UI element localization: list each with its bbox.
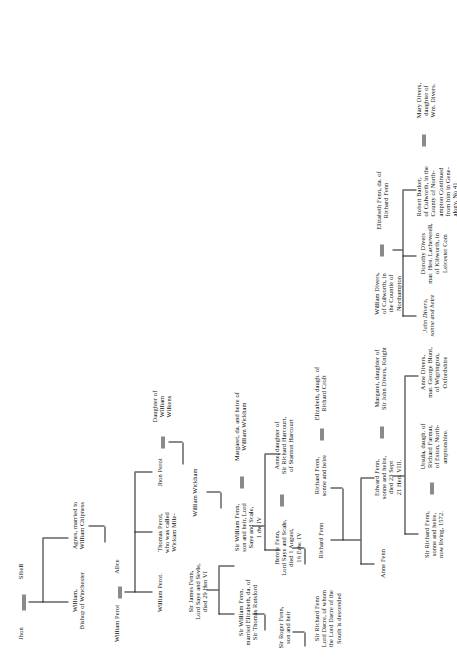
person-sir-william-fenn: Sir William Fenn,married Elizabeth, da. … <box>236 568 258 656</box>
connector-g3-c <box>134 471 152 472</box>
person-dorothy-divers: Dorothy Diversmar. Hen. Lacheverell,of K… <box>418 218 447 288</box>
marriage-link-barker <box>420 134 427 146</box>
person-thomas-perot: Thomas Perot,who was calledWickam Mile- <box>155 500 177 564</box>
connector-rf-bar <box>342 488 343 540</box>
marriage-link-g3 <box>116 586 123 598</box>
connector-james-bar <box>218 566 219 614</box>
person-richard-fenn-heire: Richard Fenn,sonne and heire <box>312 444 326 506</box>
connector-roger2-drop <box>292 631 304 632</box>
connector-rf-up <box>330 487 342 488</box>
person-william-divers: William Divers,of Culworth, inthe Counti… <box>372 258 401 328</box>
person-margaret-divers: Margaret, daughter ofSir John Divers, Kn… <box>372 332 386 424</box>
connector-g1-right <box>42 537 68 538</box>
person-william-bishop: William,Bishop of Winchester <box>70 558 84 642</box>
connector-divers-b <box>402 255 416 256</box>
connector-roger-bar <box>264 614 265 630</box>
marriage-link-g4 <box>159 436 166 448</box>
person-daughter-wilkins: Daughter ofWilliamWilkens <box>150 378 172 434</box>
connector-james-left <box>218 613 234 614</box>
person-sir-roger-fenn: Sir Roger Fenn,son and heir <box>276 598 290 656</box>
connector-roger2-bar <box>304 632 305 646</box>
marriage-link-g7 <box>278 494 285 506</box>
connector-g4-drop <box>168 441 182 442</box>
connector-roger-drop <box>252 613 264 614</box>
person-william-perot-1: William Perot <box>112 594 119 652</box>
connector-g10-drop <box>392 475 404 476</box>
person-sir-richard-fenn-living: Sir Richard Fenn,sonne and heire,now liv… <box>422 496 444 572</box>
person-jhon: Jhon <box>16 612 23 654</box>
connector-g1-bar <box>42 538 43 602</box>
connector-g10-bar <box>404 376 405 534</box>
connector-g10-b <box>404 375 418 376</box>
connector-g9-left <box>360 563 374 564</box>
person-sir-william-fenn-son: Sir William Fenn,son and heir, LordSaye … <box>232 490 261 564</box>
connector-g7-drop <box>292 547 304 548</box>
connector-divers-drop <box>392 249 402 250</box>
connector-g1-left <box>42 601 68 602</box>
person-margaret-wickham: Margaret, da. and heire ofWilliam Wickha… <box>232 378 246 474</box>
person-richard-fenn-1: Richard Fenn <box>316 512 323 568</box>
connector-g6-bar <box>264 454 265 550</box>
marriage-link-divers <box>378 244 385 256</box>
person-john-divers: John Divers,sonne and heire <box>420 284 434 346</box>
person-jhon-perot: Jhon Perot <box>155 448 162 496</box>
person-edward-fenn: Edward Fenn,sonne and heire,died 23 Sept… <box>372 442 401 512</box>
connector-g6-drop <box>252 525 264 526</box>
person-anne-divers: Anne Divers,mar. George Blunt,of Wigring… <box>418 336 447 408</box>
connector-g3-drop <box>124 591 134 592</box>
person-anne-harcourt: Anne, daughter ofSir Richard Harcourt,of… <box>272 398 294 492</box>
person-sibell: Sibell <box>16 550 23 592</box>
person-sir-james-fenn: Sir James Fenn,Lord Saye and Sevle,died … <box>186 552 208 630</box>
marriage-link-g10 <box>428 482 435 494</box>
person-alice: Alice <box>112 544 119 588</box>
connector-g9-bar <box>360 478 361 564</box>
person-william-wickham: William Wickham <box>190 460 197 524</box>
person-elizabeth-fenn: Elizabeth Fenn, da. ofRichard Fenn <box>374 158 388 242</box>
connector-wickham-drop <box>206 491 220 492</box>
person-agnes: Agnes, married toWilliam Chipness <box>70 482 84 568</box>
marriage-link-g9 <box>378 426 385 438</box>
connector-g9-drop <box>342 539 360 540</box>
connector-james-drop <box>206 589 218 590</box>
connector-g10-a <box>404 533 418 534</box>
connector-divers-bar <box>402 190 403 316</box>
connector-agnes-bar <box>104 526 105 542</box>
connector-agnes-drop <box>88 525 104 526</box>
connector-wickham-bar <box>220 492 221 508</box>
connector-g1-drop <box>28 601 42 602</box>
marriage-link-g6 <box>238 476 245 488</box>
connector-james-right <box>218 565 234 566</box>
connector-rf-drop <box>330 539 342 540</box>
person-anne-fenn: Anne Fenn <box>378 538 385 588</box>
person-sir-richard-fenn-dacre: Sir Richard FennLord Dacre, of whomthe L… <box>312 578 341 658</box>
person-ursula-farmar: Ursula, daugh. ofRichard Farmar,of Eston… <box>418 412 447 480</box>
connector-g4-bar <box>182 442 183 464</box>
person-robert-barker: Robert Barker,of Culworth, in theCounty … <box>414 150 457 216</box>
connector-g3-b <box>134 531 152 532</box>
person-william-perot-2: William Perot. <box>155 560 162 624</box>
person-elizabeth-croft: Elizabeth, daugh. ofRichard Croft <box>312 360 326 426</box>
marriage-link-g8 <box>318 428 325 440</box>
person-mary-divers: Mary Divers,daughter ofWm. Divers. <box>414 68 436 132</box>
connector-g3-a <box>134 591 152 592</box>
marriage-link-g1 <box>20 594 27 610</box>
connector-g7-bar <box>304 548 305 564</box>
connector-divers-a <box>402 315 416 316</box>
